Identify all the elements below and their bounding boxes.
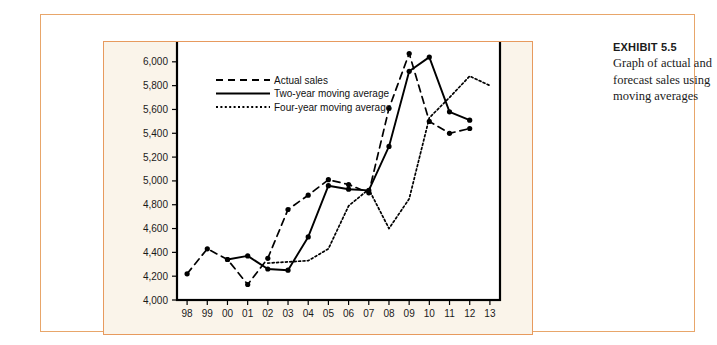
x-axis-tick-label: 12	[464, 308, 476, 319]
x-axis-tick-label: 08	[383, 308, 395, 319]
y-axis-tick-label: 4,400	[143, 247, 168, 258]
y-axis-tick-label: 4,000	[143, 295, 168, 306]
y-axis-tick-label: 5,400	[143, 128, 168, 139]
data-point-marker	[447, 109, 452, 114]
y-axis-tick-label: 5,600	[143, 104, 168, 115]
x-axis-tick-label: 13	[484, 308, 496, 319]
x-axis-tick-label: 06	[343, 308, 355, 319]
y-axis-tick-label: 5,000	[143, 175, 168, 186]
page-frame: 4,0004,2004,4004,6004,8005,0005,2005,400…	[40, 14, 695, 332]
x-axis-tick-label: 02	[262, 308, 274, 319]
data-point-marker	[346, 182, 351, 187]
data-point-marker	[245, 282, 250, 287]
moving-average-chart: 4,0004,2004,4004,6004,8005,0005,2005,400…	[104, 42, 534, 336]
x-axis-tick-label: 98	[182, 308, 194, 319]
plot-frame	[177, 42, 500, 300]
figure-panel: 4,0004,2004,4004,6004,8005,0005,2005,400…	[103, 41, 533, 335]
data-point-marker	[427, 55, 432, 60]
data-point-marker	[265, 266, 270, 271]
exhibit-title: EXHIBIT 5.5	[613, 41, 717, 53]
y-axis-tick-label: 4,800	[143, 199, 168, 210]
exhibit-caption-box: EXHIBIT 5.5 Graph of actual and forecast…	[602, 29, 717, 335]
chart-svg: 4,0004,2004,4004,6004,8005,0005,2005,400…	[104, 42, 534, 336]
x-axis-tick-label: 99	[202, 308, 214, 319]
y-axis-tick-label: 4,200	[143, 271, 168, 282]
x-axis-tick-label: 05	[323, 308, 335, 319]
data-point-marker	[306, 234, 311, 239]
data-point-marker	[467, 118, 472, 123]
exhibit-description: Graph of actual and forecast sales using…	[613, 55, 717, 105]
data-point-marker	[306, 193, 311, 198]
data-point-marker	[346, 187, 351, 192]
data-point-marker	[265, 256, 270, 261]
x-axis-tick-label: 10	[424, 308, 436, 319]
x-axis-tick-label: 00	[222, 308, 234, 319]
data-point-marker	[407, 51, 412, 56]
data-point-marker	[245, 253, 250, 258]
data-point-marker	[407, 69, 412, 74]
data-point-marker	[285, 207, 290, 212]
data-point-marker	[285, 268, 290, 273]
x-axis-tick-label: 04	[303, 308, 315, 319]
x-axis-tick-label: 11	[444, 308, 455, 319]
y-axis-tick-label: 4,600	[143, 223, 168, 234]
y-axis-tick-label: 5,200	[143, 152, 168, 163]
legend-label: Two-year moving average	[274, 88, 389, 99]
data-point-marker	[205, 246, 210, 251]
x-axis-tick-label: 07	[363, 308, 375, 319]
data-point-marker	[447, 131, 452, 136]
legend-label: Four-year moving average	[274, 102, 392, 113]
x-axis-tick-label: 01	[242, 308, 254, 319]
data-point-marker	[185, 271, 190, 276]
legend-label: Actual sales	[274, 75, 328, 86]
data-point-marker	[326, 177, 331, 182]
data-point-marker	[386, 144, 391, 149]
data-point-marker	[467, 126, 472, 131]
data-point-marker	[225, 257, 230, 262]
y-axis-tick-label: 5,800	[143, 80, 168, 91]
x-axis-tick-label: 03	[282, 308, 294, 319]
data-point-marker	[326, 183, 331, 188]
x-axis-tick-label: 09	[404, 308, 416, 319]
y-axis-tick-label: 6,000	[143, 56, 168, 67]
